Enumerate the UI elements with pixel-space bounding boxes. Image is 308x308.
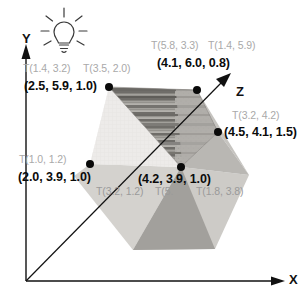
- axis-label-z: Z: [236, 85, 244, 98]
- axis-label-x: X: [289, 273, 298, 286]
- axis-labels: Y X Z: [0, 0, 308, 308]
- figure-canvas: T(1.4, 3.2) T(3.5, 2.0) T(5.8, 3.3) T(1.…: [0, 0, 308, 308]
- axis-label-y: Y: [22, 32, 31, 45]
